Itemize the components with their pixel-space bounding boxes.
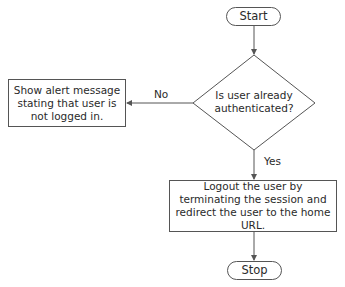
stop-label: Stop — [241, 264, 267, 277]
logout-node: Logout the user by terminating the sessi… — [169, 180, 337, 232]
decision-label-line2: authenticated? — [203, 102, 305, 115]
decision-label-line1: Is user already — [203, 89, 305, 102]
edge-label-no: No — [154, 88, 168, 100]
edge-label-yes: Yes — [264, 155, 281, 167]
alert-label: Show alert message stating that user is … — [13, 84, 121, 123]
connectors — [0, 0, 345, 287]
alert-node: Show alert message stating that user is … — [8, 79, 126, 127]
logout-label: Logout the user by terminating the sessi… — [174, 180, 332, 232]
start-node: Start — [226, 7, 281, 26]
decision-node: Is user already authenticated? — [203, 89, 305, 115]
stop-node: Stop — [227, 261, 282, 280]
start-label: Start — [239, 10, 267, 23]
